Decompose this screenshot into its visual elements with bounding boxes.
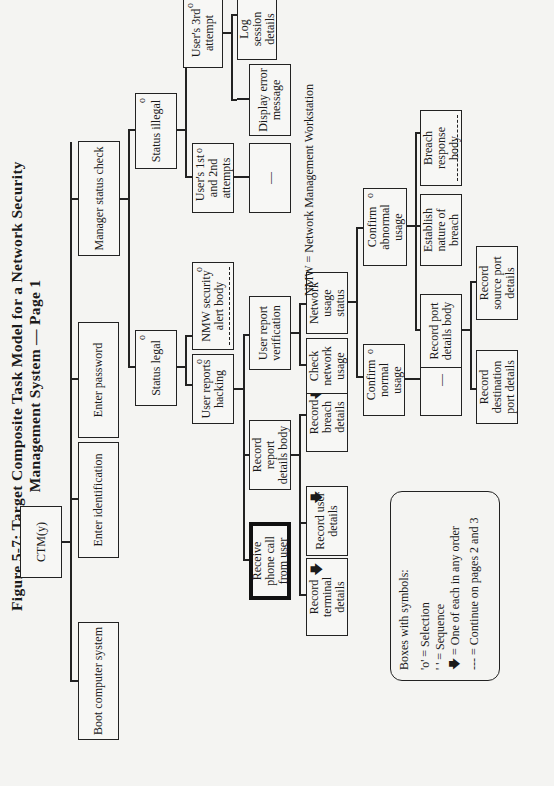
node-display-error-message: Display error message [249,64,291,136]
connector [243,335,245,561]
selection-symbol: o [194,359,204,364]
legend-item-any-order: 🡇 = One of each in any order [448,502,463,670]
any-order-arrow-icon: 🡇 [310,563,323,576]
connector [299,415,306,417]
selection-symbol: o [194,148,204,153]
connector [299,304,306,306]
connector [291,333,299,335]
connector [470,282,472,390]
node-record-user-details: Record user details🡇 [306,486,348,556]
node-enter-password: Enter password [78,322,119,438]
connector [70,681,78,683]
connector [299,365,306,367]
connector [62,542,70,544]
connector [299,416,301,596]
any-order-arrow-icon: 🡇 [310,491,323,504]
connector [223,33,231,35]
connector [407,226,415,228]
connector [120,199,128,201]
connector [415,133,417,331]
node-users-1st-2nd-attempts: User's 1st and 2nd attemptso [192,143,234,213]
connector [70,379,78,381]
node-users-3rd-attempt: User's 3rd attempto [183,0,223,68]
legend-box: Boxes with symbols: 'o' = Selection ' ' … [390,491,500,681]
connector [177,367,185,369]
connector [299,304,301,366]
node-log-session-details: Log session details [237,0,277,60]
connector [177,130,185,132]
connector [291,455,299,457]
connector [299,595,306,597]
selection-symbol: o [365,349,375,354]
selection-symbol: o [185,3,195,8]
connector [356,377,363,379]
connector [70,142,72,682]
title-line-1: Figure 5-7: Target Composite Task Model … [8,106,26,666]
node-enter-identification: Enter identification [78,442,119,558]
node-check-network-usage: Check network usage [306,338,348,394]
node-record-source-port-details: Record source port details [476,246,518,320]
node-establish-nature-of-breach: Establish nature of breach [420,194,462,266]
title-line-2: Management System — Page 1 [26,106,44,666]
connector [185,336,187,386]
node-receive-phone-call: Receive phone call from user [249,522,291,600]
node-dash-1st-2nd: — [249,143,291,213]
connector [128,130,130,368]
selection-symbol: o [194,267,204,272]
selection-symbol: o [137,98,147,103]
node-manager-status-check: Manager status check [78,141,120,256]
any-order-arrow-icon: 🡇 [448,658,462,670]
connector [185,177,192,179]
connector [356,228,358,378]
node-nmw-security-alert-body: NMW security alert bodyo [192,262,234,350]
figure-title: Figure 5-7: Target Composite Task Model … [8,106,44,666]
connector [185,336,192,338]
node-record-destination-port-details: Record destination port details [476,350,518,424]
node-confirm-normal-usage: Confirm normal usageo [363,344,405,416]
node-boot-computer-system: Boot computer system [78,622,119,740]
node-user-report-verification: User report verification [249,296,291,370]
connector [405,379,420,381]
legend-item-sequence: ' ' = Sequence [433,502,448,670]
connector [70,499,78,501]
connector [231,15,233,101]
selection-symbol: o [137,335,147,340]
node-breach-response-body: Breach response body [420,110,462,186]
node-record-terminal-details: Record terminal details🡇 [306,558,348,636]
connector [299,523,306,525]
diagram-canvas: Figure 5-7: Target Composite Task Model … [0,0,554,786]
selection-symbol: o [365,193,375,198]
legend-item-selection: 'o' = Selection [418,502,433,670]
connector [234,177,249,179]
node-user-reports-hacking: User reports hackingo [192,354,234,424]
connector [234,389,243,391]
node-status-legal: Status legalo [135,330,177,406]
connector [356,228,363,230]
node-root: CTM(y) [20,506,62,578]
connector [185,385,192,387]
node-record-report-details-body: Record report details body [249,420,291,490]
node-record-port-details-body: Record port details body [420,294,462,368]
connector [462,330,470,332]
connector [348,302,356,304]
node-confirm-abnormal-usage: Confirm abnormal usageo [363,188,407,266]
legend-item-continue: --- = Continue on pages 2 and 3 [467,502,482,670]
connector [70,199,78,201]
node-status-illegal: Status illegalo [135,93,177,169]
connector [237,99,249,101]
legend-heading: Boxes with symbols: [397,502,412,670]
abbreviation-note: NMW = Network Management Workstation [302,84,317,296]
